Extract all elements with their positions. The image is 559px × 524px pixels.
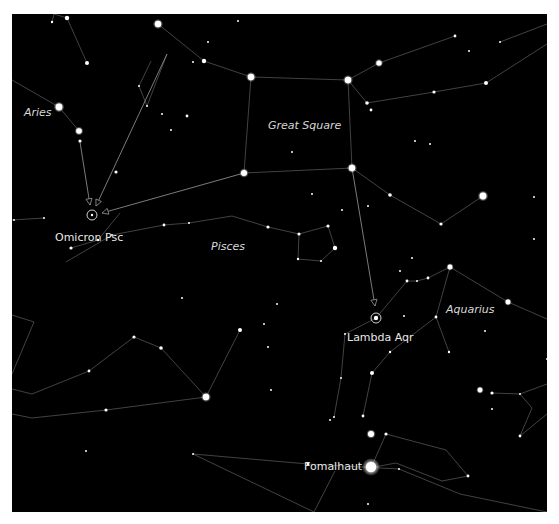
star (114, 170, 117, 173)
constellation-line (52, 14, 54, 22)
star (291, 151, 293, 153)
star (146, 105, 148, 107)
star (276, 303, 278, 305)
constellation-line (348, 80, 352, 168)
arrowhead-icon (102, 208, 109, 214)
star (237, 20, 239, 22)
constellation-line (244, 77, 251, 173)
star (248, 74, 254, 80)
constellation-line (298, 226, 335, 261)
star-fomalhaut (366, 462, 376, 472)
star (104, 408, 107, 411)
label-great-square: Great Square (268, 120, 341, 131)
star (192, 61, 194, 63)
constellation-line (500, 24, 547, 42)
star (533, 196, 535, 198)
star (340, 377, 342, 379)
star (365, 101, 369, 105)
star (398, 468, 400, 470)
star (478, 388, 483, 393)
star (43, 217, 45, 219)
constellation-line (54, 14, 87, 63)
arrowhead-icon (371, 299, 377, 306)
star (159, 346, 163, 350)
constellation-line (12, 315, 34, 374)
constellation-line (112, 216, 328, 235)
star (170, 129, 172, 131)
star (439, 222, 442, 225)
label-omicron-psc: Omicron Psc (55, 232, 123, 243)
star (484, 81, 488, 85)
constellation-line (520, 384, 547, 394)
pointer-line (80, 142, 90, 205)
star (329, 419, 331, 421)
star (416, 280, 418, 282)
star (370, 371, 374, 375)
constellation-line (520, 414, 547, 436)
constellation-line (492, 393, 532, 436)
star (427, 277, 430, 280)
star (411, 257, 413, 259)
constellation-line (486, 44, 547, 83)
star (368, 431, 374, 437)
star (448, 351, 450, 353)
star (480, 193, 487, 200)
constellation-line (314, 471, 335, 512)
arrowhead-icon (86, 198, 92, 205)
star (454, 35, 457, 38)
star (519, 435, 522, 438)
star (499, 41, 501, 43)
pointer-line (96, 54, 167, 206)
star (263, 323, 265, 325)
constellation-line (348, 80, 486, 103)
star (267, 346, 269, 348)
target-star (91, 214, 93, 216)
star (76, 128, 82, 134)
label-aries: Aries (24, 107, 52, 118)
star (238, 328, 242, 332)
constellation-line (139, 54, 167, 106)
star (207, 41, 209, 43)
star (69, 246, 72, 249)
star (384, 432, 387, 435)
star (399, 270, 401, 272)
label-pisces: Pisces (211, 241, 245, 252)
star (65, 16, 69, 20)
star (297, 258, 299, 260)
arrowhead-icon (96, 199, 102, 206)
star (467, 475, 470, 478)
star (192, 453, 194, 455)
star (491, 408, 493, 410)
star (85, 450, 87, 452)
star-chart: Aries Great Square Pisces Aquarius Omicr… (12, 14, 547, 512)
star (533, 238, 535, 240)
star (78, 139, 81, 142)
constellation-line (352, 168, 483, 224)
label-fomalhaut: Fomalhaut (304, 461, 362, 472)
constellation-line (244, 168, 352, 173)
star (13, 219, 15, 221)
star (181, 297, 183, 299)
star (376, 60, 381, 65)
star (333, 416, 335, 418)
star (484, 330, 486, 332)
star (297, 232, 300, 235)
star (326, 224, 329, 227)
star (163, 224, 166, 227)
sky-map-canvas (12, 14, 547, 512)
label-lambda-aqr: Lambda Aqr (347, 332, 414, 343)
star (432, 90, 435, 93)
star (406, 280, 409, 283)
star (367, 503, 369, 505)
star (429, 143, 431, 145)
star (188, 222, 190, 224)
star (468, 50, 470, 52)
star (389, 351, 391, 353)
constellation-line (158, 24, 348, 80)
star (311, 193, 313, 195)
star (367, 205, 369, 207)
constellation-line (12, 330, 240, 397)
star (345, 77, 351, 83)
star (388, 193, 392, 197)
star (435, 316, 438, 319)
